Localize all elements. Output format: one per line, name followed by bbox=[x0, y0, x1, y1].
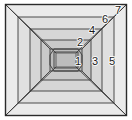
quilt-block-figure: 1 2 3 4 5 6 7 bbox=[0, 0, 132, 120]
ring-label-7: 7 bbox=[115, 4, 121, 16]
ring-label-3: 3 bbox=[92, 55, 98, 67]
ring-label-2: 2 bbox=[77, 36, 83, 48]
ring-label-1: 1 bbox=[75, 55, 81, 67]
ring-label-4: 4 bbox=[89, 24, 95, 36]
ring-label-6: 6 bbox=[102, 13, 108, 25]
quilt-block-diagram: 1 2 3 4 5 6 7 bbox=[0, 0, 132, 120]
ring-label-5: 5 bbox=[109, 55, 115, 67]
